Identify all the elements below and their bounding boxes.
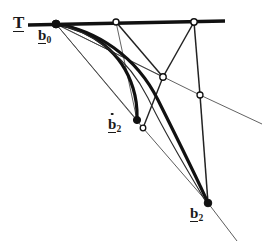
node-tangent-node-1 bbox=[113, 19, 119, 25]
figure-canvas: T b0 b2 b2 bbox=[0, 0, 266, 251]
label-tangent-T: T bbox=[13, 14, 24, 32]
label-b0-subscript: 0 bbox=[47, 35, 52, 45]
node-layer bbox=[52, 19, 212, 207]
node-right-node bbox=[197, 92, 203, 98]
node-b2hat-point bbox=[133, 116, 140, 123]
node-tangent-node-2 bbox=[191, 19, 197, 25]
hat-dot-icon bbox=[111, 113, 114, 116]
node-center-node bbox=[160, 74, 166, 80]
label-b2-hat-wrap: b bbox=[108, 117, 116, 133]
node-b0-point bbox=[52, 20, 60, 28]
label-b2-subscript: 2 bbox=[199, 213, 204, 223]
label-b2-hat: b2 bbox=[108, 117, 121, 133]
label-b0: b0 bbox=[38, 28, 51, 44]
ray-b0-through-right-node bbox=[56, 24, 262, 124]
node-b2hat-open bbox=[140, 125, 146, 131]
node-b2-point bbox=[204, 199, 212, 207]
control-leg-node2-to-center bbox=[163, 22, 194, 77]
stroke-layer bbox=[28, 21, 262, 241]
label-b0-base: b bbox=[38, 28, 46, 44]
label-b2: b2 bbox=[190, 206, 203, 222]
label-tangent-T-base: T bbox=[13, 14, 24, 32]
label-b2-hat-subscript: 2 bbox=[117, 124, 122, 134]
label-b2-hat-base: b bbox=[108, 117, 116, 133]
label-b2-base: b bbox=[190, 206, 198, 222]
control-leg-node2-to-right bbox=[194, 22, 200, 95]
